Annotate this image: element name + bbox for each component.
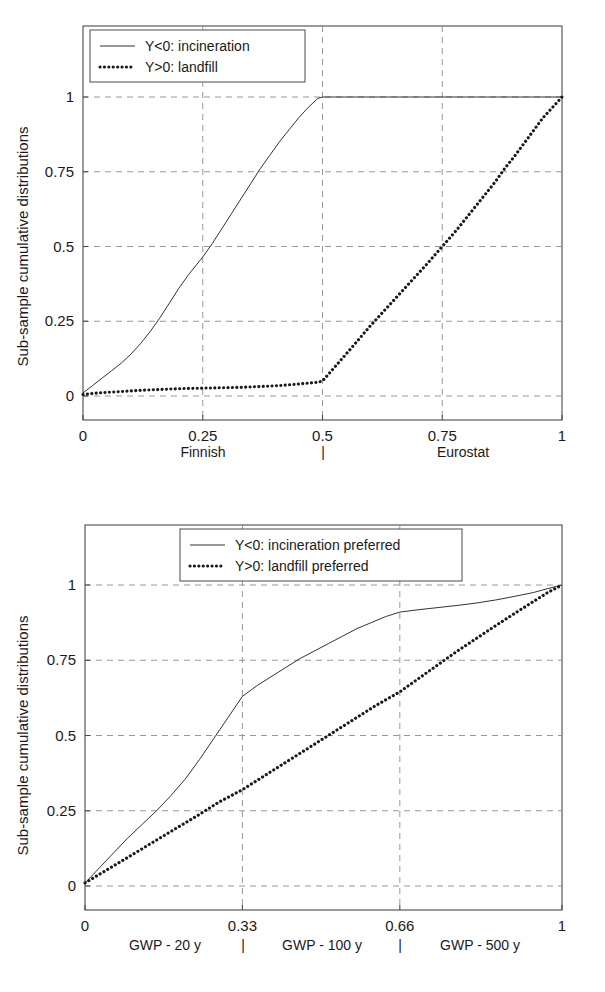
x-tick-label: 0.25	[188, 427, 217, 444]
y-tick-label: 0.25	[45, 312, 74, 329]
legend-label: Y<0: incineration	[145, 38, 250, 54]
y-axis-title: Sub-sample cumulative distributions	[14, 615, 31, 855]
y-axis-title: Sub-sample cumulative distributions	[14, 126, 31, 366]
x-group-label: |	[398, 937, 402, 953]
x-group-label: GWP - 500 y	[440, 937, 520, 953]
x-tick-label: 0.33	[228, 917, 257, 934]
x-tick-label: 0.5	[312, 427, 333, 444]
legend-label: Y<0: incineration preferred	[235, 537, 400, 553]
x-tick-label: 0.66	[385, 917, 414, 934]
y-tick-label: 1	[68, 576, 76, 593]
x-group-label: |	[321, 444, 325, 460]
x-group-label: GWP - 20 y	[129, 937, 201, 953]
y-tick-label: 0	[66, 387, 74, 404]
legend-label: Y>0: landfill preferred	[235, 558, 368, 574]
chart-canvas-top: 00.250.50.75100.250.50.751Sub-sample cum…	[0, 0, 605, 480]
y-tick-label: 0.75	[47, 651, 76, 668]
y-tick-label: 1	[66, 88, 74, 105]
y-tick-label: 0.75	[45, 163, 74, 180]
chart-canvas-bottom: 00.250.50.75100.330.661Sub-sample cumula…	[0, 480, 605, 992]
x-tick-label: 0	[79, 427, 87, 444]
x-group-label: |	[241, 937, 245, 953]
plot-frame	[85, 525, 562, 910]
x-group-label: GWP - 100 y	[282, 937, 362, 953]
x-tick-label: 1	[558, 917, 566, 934]
series-line-landfill	[85, 585, 562, 883]
x-tick-label: 1	[558, 427, 566, 444]
figure-finnish-eurostat: 00.250.50.75100.250.50.751Sub-sample cum…	[0, 0, 605, 480]
legend-label: Y>0: landfill	[145, 59, 218, 75]
y-tick-label: 0.5	[55, 727, 76, 744]
x-group-label: Finnish	[180, 444, 225, 460]
figure-gwp-horizons: 00.250.50.75100.330.661Sub-sample cumula…	[0, 480, 605, 992]
x-group-label: Eurostat	[437, 444, 489, 460]
x-tick-label: 0.75	[428, 427, 457, 444]
y-tick-label: 0.5	[53, 238, 74, 255]
y-tick-label: 0.25	[47, 802, 76, 819]
x-tick-label: 0	[81, 917, 89, 934]
y-tick-label: 0	[68, 877, 76, 894]
